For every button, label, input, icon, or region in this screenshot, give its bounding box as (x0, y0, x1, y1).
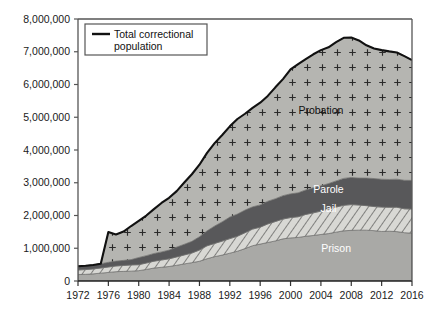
y-tick-label: 6,000,000 (23, 78, 70, 90)
legend-label-line1: Total correctional (114, 28, 193, 40)
y-tick-label: 7,000,000 (23, 45, 70, 57)
y-tick-label: 2,000,000 (23, 209, 70, 221)
x-tick-label: 2008 (340, 289, 364, 301)
x-tick-label: 1992 (218, 289, 242, 301)
x-tick-label: 1980 (127, 289, 151, 301)
y-tick-label: 1,000,000 (23, 242, 70, 254)
y-tick-label: 0 (64, 275, 70, 287)
x-tick-label: 2012 (370, 289, 394, 301)
x-tick-label: 2004 (309, 289, 333, 301)
x-tick-label: 1976 (97, 289, 121, 301)
chart-canvas: 01,000,0002,000,0003,000,0004,000,0005,0… (0, 0, 444, 315)
y-tick-label: 3,000,000 (23, 176, 70, 188)
y-axis-ticks: 01,000,0002,000,0003,000,0004,000,0005,0… (23, 13, 78, 287)
legend-label-line2: population (114, 40, 163, 52)
x-tick-label: 2016 (400, 289, 424, 301)
x-tick-label: 1988 (188, 289, 212, 301)
y-tick-label: 5,000,000 (23, 111, 70, 123)
x-tick-label: 1996 (249, 289, 273, 301)
x-tick-label: 1984 (157, 289, 181, 301)
x-tick-label: 2000 (279, 289, 303, 301)
series-label-probation: Probation (298, 104, 343, 116)
correctional-population-chart: 01,000,0002,000,0003,000,0004,000,0005,0… (0, 0, 444, 315)
legend: Total correctional population (85, 24, 207, 55)
x-tick-label: 1972 (66, 289, 90, 301)
series-label-parole: Parole (313, 183, 344, 195)
y-tick-label: 8,000,000 (23, 13, 70, 25)
y-tick-label: 4,000,000 (23, 144, 70, 156)
series-label-prison: Prison (321, 242, 351, 254)
series-label-jail: Jail (321, 202, 337, 214)
